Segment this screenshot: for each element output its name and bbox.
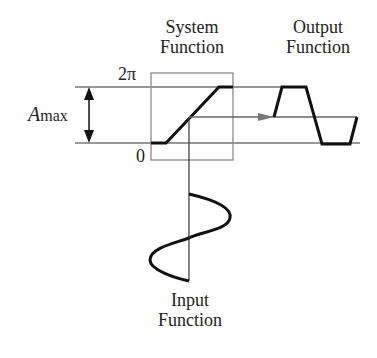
zero-label: 0 bbox=[136, 146, 145, 166]
output-waveform bbox=[274, 87, 357, 144]
arrow-up-icon bbox=[84, 87, 94, 100]
arrowhead-icon bbox=[258, 113, 274, 121]
input-waveform bbox=[150, 194, 230, 281]
input-function-label: Input Function bbox=[150, 290, 230, 330]
output-function-label: Output Function bbox=[276, 17, 360, 57]
transfer-curve bbox=[151, 87, 233, 143]
amax-label: Amax bbox=[28, 104, 68, 126]
two-pi-label: 2π bbox=[118, 64, 136, 84]
arrow-down-icon bbox=[84, 130, 94, 143]
system-function-label: System Function bbox=[152, 17, 232, 57]
